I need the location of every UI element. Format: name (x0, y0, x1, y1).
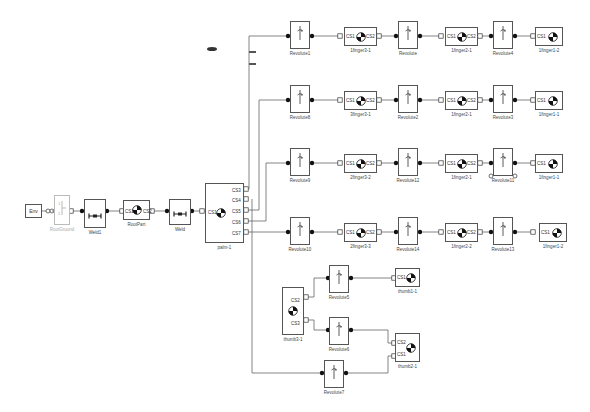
body-block[interactable]: CS1 (535, 154, 563, 173)
joint-port-dot[interactable] (310, 161, 314, 165)
revolute-joint-icon (296, 89, 304, 109)
revolute-joint-block[interactable] (398, 21, 418, 49)
revolute-joint-block[interactable] (398, 148, 418, 176)
root-part-block[interactable]: CS1CS2 (123, 200, 150, 220)
block-label: Revolute9 (290, 178, 310, 183)
connection-port[interactable] (377, 161, 381, 165)
sensor-port[interactable] (46, 209, 50, 213)
revolute-joint-block[interactable] (493, 85, 513, 113)
connection-line[interactable] (308, 320, 326, 330)
connection-line[interactable] (248, 36, 286, 189)
svg-text:2: 2 (58, 211, 61, 216)
revolute-joint-block[interactable] (290, 148, 310, 176)
body-block[interactable]: CS1CS2 (445, 27, 478, 46)
connection-port[interactable] (338, 34, 342, 38)
body-block[interactable]: CS1CS2 (445, 223, 478, 242)
port-label: CS2 (366, 98, 375, 103)
body-icon (552, 224, 562, 242)
body-block[interactable]: CS2CS1 (395, 333, 420, 362)
revolute-joint-block[interactable] (493, 217, 513, 245)
connection-port[interactable] (377, 34, 381, 38)
joint-port-dot[interactable] (418, 161, 422, 165)
body-block[interactable]: CS1 (539, 223, 567, 242)
palm-block[interactable]: CS1CS3CS4CS5CS6CS7 (205, 183, 244, 243)
joint-port-dot[interactable] (418, 98, 422, 102)
connection-port[interactable] (377, 230, 381, 234)
model-canvas[interactable]: Env12RootGroundWeld1CS1CS2RootPartWeldCS… (0, 0, 590, 412)
joint-port-dot[interactable] (513, 34, 517, 38)
revolute-joint-block[interactable] (493, 21, 513, 49)
revolute-joint-block[interactable] (329, 265, 349, 293)
connection-port[interactable] (531, 230, 535, 234)
block-label: Revolute12 (397, 178, 420, 183)
joint-port-dot[interactable] (513, 230, 517, 234)
connection-port[interactable] (377, 98, 381, 102)
connection-port[interactable] (200, 209, 204, 213)
connection-line[interactable] (353, 330, 392, 343)
body-block[interactable]: CS1 (535, 27, 563, 46)
connection-port[interactable] (439, 230, 443, 234)
body-block[interactable]: CS1CS2 (445, 91, 478, 110)
joint-port-dot[interactable] (349, 276, 353, 280)
body-block[interactable]: CS1CS2 (344, 154, 377, 173)
connection-port[interactable] (244, 230, 248, 234)
body-block[interactable]: CS1 (535, 91, 563, 110)
revolute-joint-block[interactable] (290, 85, 310, 113)
body-block[interactable]: CS1CS2 (344, 223, 377, 242)
revolute-joint-block[interactable] (324, 360, 344, 388)
body-block[interactable]: CS1CS2 (344, 27, 377, 46)
connection-port[interactable] (304, 318, 308, 322)
machine-config-block[interactable]: 12 (54, 195, 70, 225)
connection-port[interactable] (338, 230, 342, 234)
connection-port[interactable] (478, 34, 482, 38)
connection-port[interactable] (478, 98, 482, 102)
connection-line[interactable] (248, 100, 286, 210)
joint-port-dot[interactable] (310, 230, 314, 234)
connection-port[interactable] (244, 197, 248, 201)
joint-port-dot[interactable] (344, 371, 348, 375)
thumb-base-block[interactable]: CS2CS3 (282, 287, 304, 335)
revolute-joint-block[interactable] (398, 85, 418, 113)
joint-port-dot[interactable] (513, 161, 517, 165)
connection-port[interactable] (439, 34, 443, 38)
revolute-joint-block[interactable] (290, 21, 310, 49)
joint-port-dot[interactable] (349, 328, 353, 332)
joint-port-dot[interactable] (418, 230, 422, 234)
connection-line[interactable] (348, 356, 392, 373)
revolute-joint-block[interactable] (398, 217, 418, 245)
body-block[interactable]: CS1CS2 (445, 154, 478, 173)
connection-port[interactable] (244, 208, 248, 212)
connection-port[interactable] (338, 161, 342, 165)
joint-port-dot[interactable] (418, 34, 422, 38)
joint-port-dot[interactable] (513, 98, 517, 102)
port-label: CS1 (537, 161, 546, 166)
connection-port[interactable] (244, 187, 248, 191)
joint-port-dot[interactable] (310, 34, 314, 38)
revolute-joint-icon (330, 364, 338, 384)
connection-port[interactable] (244, 219, 248, 223)
body-block[interactable]: CS1 (395, 268, 420, 287)
block-label: Revolute (399, 51, 417, 56)
connection-line[interactable] (308, 278, 326, 297)
port-label: CS1 (346, 230, 355, 235)
body-block[interactable]: CS1CS2 (344, 91, 377, 110)
connection-port[interactable] (478, 230, 482, 234)
port-label: CS1 (346, 161, 355, 166)
connection-port[interactable] (439, 161, 443, 165)
stray-mark (249, 51, 256, 53)
port-label: CS2 (397, 340, 406, 345)
joint-port-dot[interactable] (310, 98, 314, 102)
weld1-block[interactable] (84, 199, 106, 228)
connection-port[interactable] (304, 295, 308, 299)
revolute-joint-block[interactable] (493, 148, 513, 176)
revolute-joint-block[interactable] (329, 317, 349, 345)
connection-port[interactable] (338, 98, 342, 102)
env-block[interactable]: Env (25, 204, 42, 218)
connection-line[interactable] (248, 163, 286, 221)
connection-port[interactable] (478, 161, 482, 165)
connection-port[interactable] (439, 98, 443, 102)
weld2-block[interactable] (169, 199, 191, 225)
revolute-joint-icon (335, 321, 343, 341)
revolute-joint-block[interactable] (290, 217, 310, 245)
body-icon (356, 224, 366, 242)
